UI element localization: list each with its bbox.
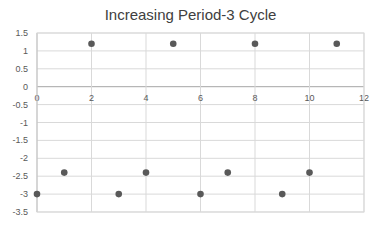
data-point bbox=[170, 40, 177, 47]
x-tick-label: 8 bbox=[252, 93, 257, 103]
x-tick-label: 10 bbox=[304, 93, 314, 103]
y-tick-label: -2.5 bbox=[12, 171, 28, 181]
data-point bbox=[279, 191, 286, 198]
y-tick-label: -1.5 bbox=[12, 135, 28, 145]
data-point bbox=[115, 191, 122, 198]
data-point bbox=[197, 191, 204, 198]
y-tick-label: 0 bbox=[23, 82, 28, 92]
y-tick-label: 1 bbox=[23, 46, 28, 56]
data-point bbox=[143, 169, 150, 176]
y-tick-label: -3.5 bbox=[12, 207, 28, 217]
y-tick-label: -3 bbox=[20, 189, 28, 199]
y-tick-label: 0.5 bbox=[15, 64, 28, 74]
data-point bbox=[306, 169, 313, 176]
x-tick-label: 6 bbox=[198, 93, 203, 103]
data-point bbox=[34, 191, 41, 198]
data-point bbox=[333, 40, 340, 47]
data-point bbox=[61, 169, 68, 176]
data-point bbox=[224, 169, 231, 176]
data-point bbox=[252, 40, 259, 47]
y-tick-label: 1.5 bbox=[15, 28, 28, 38]
x-tick-label: 2 bbox=[89, 93, 94, 103]
x-tick-label: 4 bbox=[143, 93, 148, 103]
scatter-chart: 1.510.50-0.5-1-1.5-2-2.5-3-3.5024681012 bbox=[0, 0, 381, 230]
data-point bbox=[88, 40, 95, 47]
y-tick-label: -0.5 bbox=[12, 100, 28, 110]
y-tick-label: -2 bbox=[20, 153, 28, 163]
y-tick-label: -1 bbox=[20, 118, 28, 128]
